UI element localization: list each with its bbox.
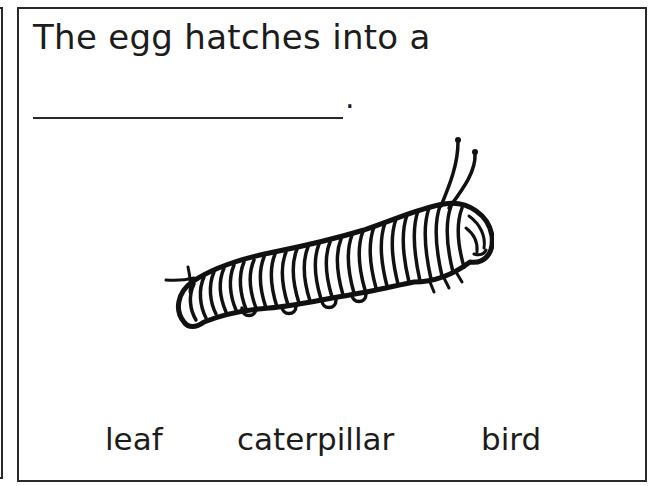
word-choices: leaf caterpillar bird [19, 419, 645, 463]
sentence-period: . [345, 83, 355, 113]
choice-leaf[interactable]: leaf [105, 419, 163, 459]
caterpillar-icon [144, 124, 494, 339]
prompt-text: The egg hatches into a [33, 17, 431, 57]
answer-blank[interactable] [33, 117, 343, 119]
adjacent-card-edge [0, 7, 3, 479]
choice-caterpillar[interactable]: caterpillar [237, 419, 394, 459]
choice-bird[interactable]: bird [481, 419, 541, 459]
worksheet-card: The egg hatches into a . [17, 7, 647, 482]
caterpillar-illustration [144, 124, 494, 339]
